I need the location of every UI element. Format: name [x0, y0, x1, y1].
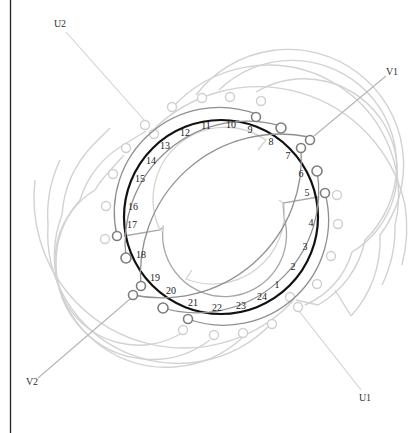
slot-label-11: 11	[201, 120, 211, 131]
coil-terminal	[321, 189, 330, 198]
coil-terminal	[101, 235, 110, 244]
slot-label-20: 20	[166, 285, 176, 296]
slot-label-24: 24	[257, 291, 267, 302]
coil-terminal	[276, 123, 286, 133]
coil-terminal	[334, 220, 343, 229]
slot-label-18: 18	[136, 249, 146, 260]
coil-terminal	[268, 320, 277, 329]
coil-terminal	[239, 329, 248, 338]
coil-terminal	[312, 166, 322, 176]
slot-label-3: 3	[303, 241, 308, 252]
coil-terminal	[122, 144, 131, 153]
slot-label-7: 7	[286, 150, 291, 161]
coil-terminal	[113, 232, 122, 241]
terminal-label-v1: V1	[386, 66, 398, 77]
v2-lead	[38, 299, 130, 378]
terminal-label-u2: U2	[54, 18, 66, 29]
coil-terminal	[257, 97, 266, 106]
slot-label-6: 6	[299, 168, 304, 179]
coil-terminal	[129, 291, 138, 300]
slot-label-5: 5	[305, 187, 310, 198]
terminal-label-v2: V2	[26, 376, 38, 387]
coil-terminal	[294, 303, 303, 312]
coil-terminal	[141, 121, 150, 130]
coil-terminal	[184, 315, 193, 324]
coil-terminal	[109, 170, 118, 179]
coil-terminal	[313, 280, 322, 289]
coil-terminal	[158, 303, 168, 313]
slot-label-22: 22	[212, 302, 222, 313]
terminal-label-u1: U1	[359, 392, 371, 403]
slot-label-16: 16	[128, 201, 138, 212]
u2-lead	[66, 32, 145, 121]
slot-label-9: 9	[248, 124, 253, 135]
coil-terminal	[333, 191, 342, 200]
phase-u-coils	[34, 32, 407, 390]
coil-terminal	[327, 252, 336, 261]
coil-terminal	[179, 326, 188, 335]
coil-terminal	[286, 293, 295, 302]
slot-label-21: 21	[188, 297, 198, 308]
v1-lead	[314, 76, 386, 136]
slot-label-13: 13	[160, 140, 170, 151]
coil-terminal	[210, 331, 219, 340]
coil-terminal	[137, 282, 146, 291]
slot-label-8: 8	[269, 136, 274, 147]
coil-terminal	[297, 144, 306, 153]
winding-diagram: 1 2 3 4 5 6 7 8 9 10 11 12 13 14 15 16 1…	[0, 0, 415, 433]
slot-label-10: 10	[226, 119, 236, 130]
slot-label-1: 1	[275, 279, 280, 290]
coil-terminal	[252, 113, 261, 122]
coil-terminal	[306, 136, 315, 145]
coil-terminal	[168, 103, 177, 112]
coil-terminal	[102, 202, 111, 211]
coil-terminal	[121, 253, 131, 263]
slot-label-17: 17	[127, 219, 137, 230]
slot-label-23: 23	[236, 300, 246, 311]
slot-label-19: 19	[150, 272, 160, 283]
slot-label-4: 4	[309, 217, 314, 228]
u1-lead	[299, 311, 361, 390]
slot-label-12: 12	[180, 127, 190, 138]
slot-label-15: 15	[135, 173, 145, 184]
coil-terminal	[226, 93, 235, 102]
coil-terminal	[198, 94, 207, 103]
slot-label-14: 14	[146, 155, 156, 166]
slot-label-2: 2	[291, 261, 296, 272]
